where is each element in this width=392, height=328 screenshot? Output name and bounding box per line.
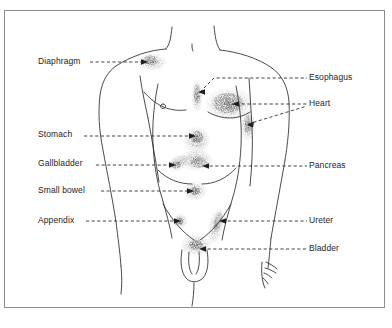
label-pancreas: Pancreas [309,161,346,170]
stipple-heart [204,87,256,142]
label-esophagus: Esophagus [309,73,352,82]
label-bladder: Bladder [309,244,339,253]
label-heart: Heart [309,99,330,108]
label-stomach: Stomach [38,130,72,139]
figure-root: Diaphragm Stomach Gallbladder Small bowe… [0,0,392,328]
label-appendix: Appendix [38,216,74,225]
label-small-bowel: Small bowel [38,186,85,195]
label-ureter: Ureter [309,216,333,225]
leader-heart-lower [248,106,307,124]
label-diaphragm: Diaphragm [38,57,80,66]
stipple-esophagus [191,79,203,113]
label-gallbladder: Gallbladder [38,159,83,168]
stipple-bladder [180,234,212,256]
